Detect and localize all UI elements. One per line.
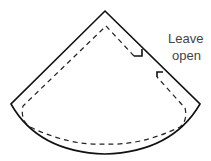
opening-marker-lower — [157, 72, 163, 77]
pattern-diagram: Leave open — [0, 0, 211, 161]
seam-line — [22, 26, 186, 144]
annotation-open: open — [172, 48, 201, 63]
opening-marker-upper — [134, 49, 142, 56]
annotation-leave: Leave — [168, 31, 203, 46]
